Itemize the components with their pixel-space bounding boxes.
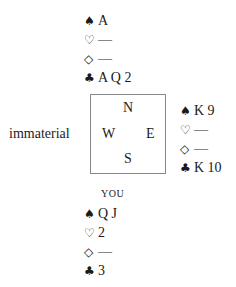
north-clubs: ♣A Q 2: [84, 68, 131, 87]
south-spades: ♠Q J: [84, 204, 117, 223]
north-hand: ♠A ♡— ◇— ♣A Q 2: [84, 11, 131, 87]
heart-icon: ♡: [84, 224, 98, 243]
heart-icon: ♡: [180, 121, 194, 140]
south-clubs: ♣3: [84, 261, 117, 280]
east-hearts: ♡—: [180, 120, 222, 139]
spade-icon: ♠: [84, 12, 98, 31]
club-icon: ♣: [84, 262, 98, 281]
north-diamonds: ◇—: [84, 49, 131, 68]
spade-icon: ♠: [84, 205, 98, 224]
compass-west: W: [102, 126, 115, 142]
compass-east: E: [146, 126, 155, 142]
club-icon: ♣: [84, 69, 98, 88]
east-clubs: ♣K 10: [180, 158, 222, 177]
club-icon: ♣: [180, 159, 194, 178]
diamond-icon: ◇: [180, 140, 194, 159]
west-hand: immaterial: [9, 126, 70, 142]
diamond-icon: ◇: [84, 50, 98, 69]
heart-icon: ♡: [84, 31, 98, 50]
east-hand: ♠K 9 ♡— ◇— ♣K 10: [180, 101, 222, 177]
compass-box: N W E S: [90, 94, 166, 174]
north-hearts: ♡—: [84, 30, 131, 49]
you-label: YOU: [101, 188, 124, 199]
east-diamonds: ◇—: [180, 139, 222, 158]
compass-south: S: [124, 151, 132, 167]
compass-north: N: [123, 100, 133, 116]
diamond-icon: ◇: [84, 243, 98, 262]
south-hearts: ♡2: [84, 223, 117, 242]
south-diamonds: ◇—: [84, 242, 117, 261]
east-spades: ♠K 9: [180, 101, 222, 120]
spade-icon: ♠: [180, 102, 194, 121]
north-spades: ♠A: [84, 11, 131, 30]
south-hand: ♠Q J ♡2 ◇— ♣3: [84, 204, 117, 280]
